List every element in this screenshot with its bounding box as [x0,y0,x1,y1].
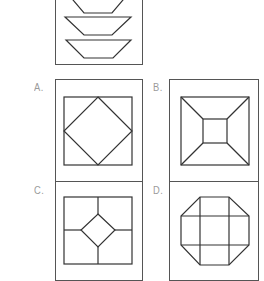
option-c-figure [64,197,132,264]
option-d-figure [181,197,249,265]
option-b-figure [181,97,249,165]
option-a-figure [64,97,132,165]
